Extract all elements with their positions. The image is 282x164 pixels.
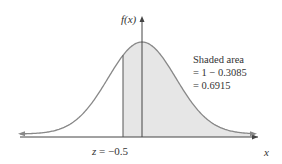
curve-left-arrow-icon [18, 131, 25, 136]
annotation-line-1: Shaded area [193, 53, 247, 66]
shaded-area-annotation: Shaded area = 1 − 0.3085 = 0.6915 [193, 53, 247, 92]
annotation-line-2: = 1 − 0.3085 [193, 66, 247, 79]
z-value: = −0.5 [96, 145, 128, 157]
y-axis-arrow-icon [140, 16, 145, 22]
x-axis-label: x [264, 146, 269, 158]
y-axis-label: f(x) [121, 13, 136, 25]
z-marker-label: z = −0.5 [92, 145, 128, 157]
annotation-line-3: = 0.6915 [193, 79, 247, 92]
